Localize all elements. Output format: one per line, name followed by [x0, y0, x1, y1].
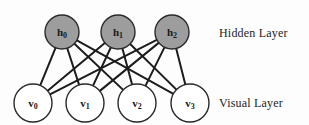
rbm-diagram: h0h1h2v0v1v2v3 Hidden Layer Visual Layer: [0, 0, 309, 125]
hidden-layer-label: Hidden Layer: [219, 26, 288, 41]
edge-h1-v1: [93, 47, 112, 87]
node-subscript-h1: 1: [119, 31, 123, 40]
nodes-group: h0h1h2v0v1v2v3: [14, 15, 209, 122]
edge-h2-v1: [99, 42, 160, 92]
edge-h0-v2: [74, 43, 124, 91]
node-v1[interactable]: v1: [66, 84, 104, 122]
node-v0[interactable]: v0: [14, 84, 52, 122]
node-v2[interactable]: v2: [118, 84, 156, 122]
node-subscript-h2: 2: [173, 31, 177, 40]
edge-h2-v3: [176, 48, 186, 86]
node-h2[interactable]: h2: [155, 15, 189, 49]
node-subscript-v0: 0: [34, 102, 38, 111]
edge-h0-v0: [40, 47, 56, 87]
node-subscript-v1: 1: [86, 102, 90, 111]
node-h1[interactable]: h1: [101, 15, 135, 49]
node-h0[interactable]: h0: [45, 15, 79, 49]
node-subscript-v2: 2: [138, 102, 142, 111]
node-subscript-h0: 0: [63, 31, 67, 40]
visual-layer-label: Visual Layer: [219, 96, 283, 111]
node-subscript-v3: 3: [191, 102, 195, 111]
node-v3[interactable]: v3: [171, 84, 209, 122]
